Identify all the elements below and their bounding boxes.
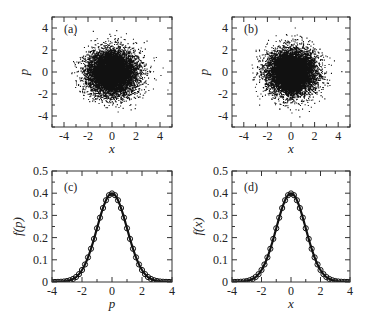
y-tick-label: -2 [218,87,228,101]
x-axis-label: x [108,141,115,156]
x-axis-label: p [108,296,116,311]
plot-area [49,191,174,285]
plot-area [252,27,343,117]
x-tick-label: 2 [312,129,318,143]
x-tick-label: 4 [169,284,175,298]
y-tick-label: -2 [38,87,48,101]
plot-area [229,191,352,285]
y-tick-label: 4 [42,21,48,35]
x-tick-label: 4 [157,129,163,143]
x-tick-label: 2 [139,284,145,298]
y-tick-label: 0.3 [213,208,228,222]
figure: -4-2024-4-2024xp(a) -4-2024-4-2024xp(b) … [0,0,375,324]
theory-curve [232,193,350,282]
y-tick-label: 0 [42,65,48,79]
theory-curve [52,193,172,282]
scatter-points [252,27,343,117]
x-tick-label: 4 [335,129,341,143]
y-tick-label: 0.4 [33,186,48,200]
y-axis-label: f(p) [10,217,25,236]
y-tick-label: 0.4 [213,186,228,200]
y-tick-label: 0.1 [213,253,228,267]
y-tick-label: 0.5 [33,164,48,178]
x-tick-label: -2 [262,129,272,143]
panel-c-distribution-p: -4-202400.10.20.30.40.5pf(p)(c) [10,164,175,311]
y-tick-label: 0.5 [213,164,228,178]
y-tick-label: 0 [42,275,48,289]
y-axis-label: p [16,68,31,76]
y-tick-label: 0.1 [33,253,48,267]
y-tick-label: 0.3 [33,208,48,222]
y-axis-label: p [196,68,211,76]
panel-b-scatter: -4-2024-4-2024xp(b) [196,17,350,156]
panel-label: (b) [244,22,258,36]
x-tick-label: 2 [133,129,139,143]
panel-label: (c) [64,180,77,194]
plot-area [71,30,168,112]
y-tick-label: 0.2 [213,231,228,245]
x-tick-label: -2 [77,284,87,298]
panel-a-scatter: -4-2024-4-2024xp(a) [16,17,172,156]
x-tick-label: -4 [59,129,69,143]
x-tick-label: 2 [318,284,324,298]
y-tick-label: 4 [222,21,228,35]
y-tick-label: 0 [222,275,228,289]
x-axis-label: x [287,141,294,156]
x-tick-label: -4 [47,284,57,298]
y-tick-label: 0.2 [33,231,48,245]
x-tick-label: -4 [227,284,237,298]
scatter-points [71,30,168,112]
y-axis-label: f(x) [190,217,205,235]
x-tick-label: -4 [239,129,249,143]
panel-label: (d) [244,180,258,194]
x-tick-label: -2 [83,129,93,143]
y-tick-label: 2 [222,43,228,57]
panel-d-distribution-x: -4-202400.10.20.30.40.5xf(x)(d) [190,164,353,311]
y-tick-label: -4 [38,109,48,123]
y-tick-label: 2 [42,43,48,57]
y-tick-label: 0 [222,65,228,79]
x-axis-label: x [287,296,294,311]
x-tick-label: 4 [347,284,353,298]
panel-label: (a) [64,22,77,36]
y-tick-label: -4 [218,109,228,123]
x-tick-label: -2 [257,284,267,298]
